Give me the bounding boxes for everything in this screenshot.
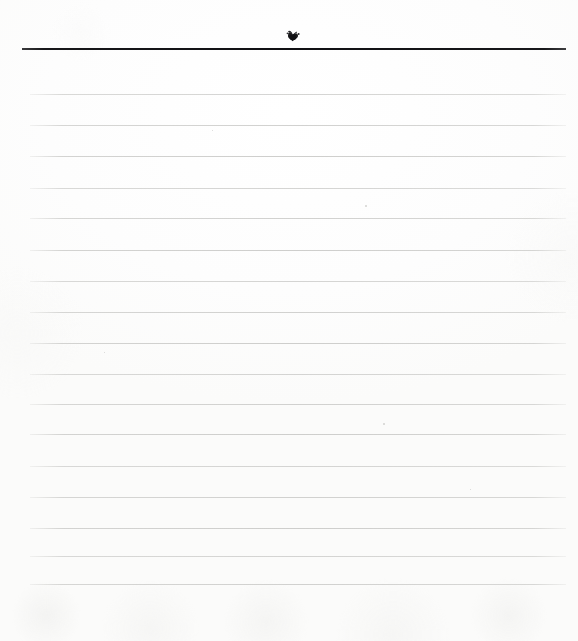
rule-line: [30, 312, 566, 313]
scan-speck: [365, 205, 367, 207]
ruled-lines: [0, 0, 578, 641]
scan-speck: [470, 489, 471, 490]
rule-line: [30, 343, 566, 344]
rule-line: [30, 125, 566, 126]
rule-line: [30, 556, 566, 557]
rule-line: [30, 434, 566, 435]
rule-line: [30, 466, 566, 467]
rule-line: [30, 404, 566, 405]
rule-line: [30, 250, 566, 251]
rule-line: [30, 218, 566, 219]
scan-speck: [383, 423, 385, 425]
scan-speck: [104, 352, 105, 353]
scan-speck: [212, 130, 213, 131]
rule-line: [30, 94, 566, 95]
rule-line: [30, 497, 566, 498]
rule-line: [30, 156, 566, 157]
rule-line: [30, 528, 566, 529]
rule-line: [30, 281, 566, 282]
rule-line: [30, 188, 566, 189]
rule-line: [30, 374, 566, 375]
rule-line: [30, 584, 566, 585]
notepad-page: [0, 0, 578, 641]
header-rule: [22, 48, 566, 50]
